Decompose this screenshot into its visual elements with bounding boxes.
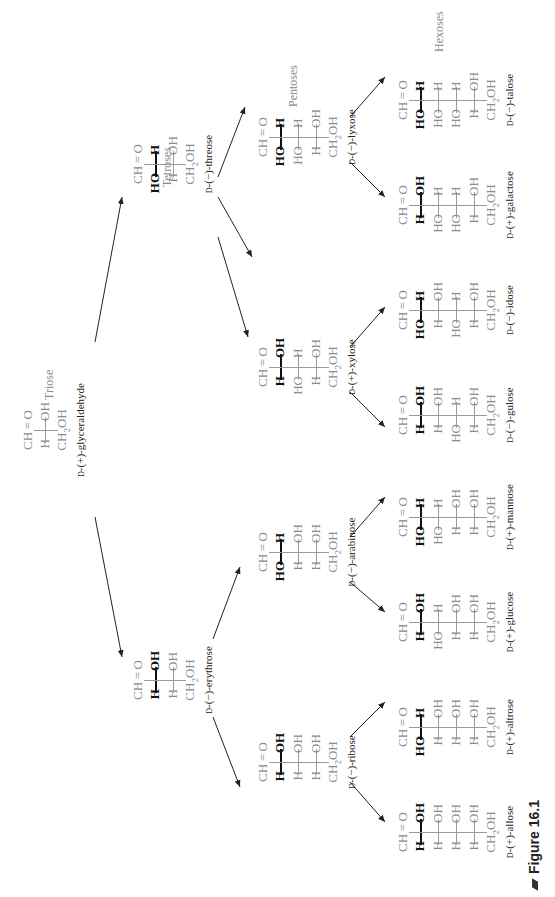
fischer-projection-erythrose: CH = OHOHHOHCH2OH: [130, 645, 198, 715]
right-substituent: OH: [307, 109, 325, 128]
right-substituent: OH: [429, 387, 447, 406]
figure-caption: Figure 16.1: [526, 800, 542, 889]
right-substituent: OH: [429, 282, 447, 301]
carbon-backbone: [409, 832, 487, 833]
carbon-backbone: [409, 727, 487, 728]
right-substituent: H: [429, 187, 447, 196]
fischer-projection-xylose: CH = OHOHHOHHOHCH2OH: [255, 332, 341, 402]
carbon-backbone: [409, 310, 487, 311]
fischer-projection-talose: CH = OHOHHOHHOHHOHCH2OH: [395, 65, 499, 135]
right-substituent: OH: [465, 282, 483, 301]
fischer-projection-gulose: CH = OHOHHOHHOHHOHCH2OH: [395, 380, 499, 450]
sugar-name-glucose: D-(+)-glucose: [503, 562, 515, 682]
fischer-projection-arabinose: CH = OHOHHOHHOHCH2OH: [255, 517, 341, 587]
carbon-backbone: [144, 164, 186, 165]
right-substituent: H: [447, 187, 465, 196]
right-substituent: OH: [447, 489, 465, 508]
fischer-projection-ribose: CH = OHOHHOHHOHCH2OH: [255, 727, 341, 797]
right-substituent: OH: [411, 176, 429, 196]
right-substituent: OH: [411, 386, 429, 406]
right-substituent: OH: [164, 136, 182, 155]
right-substituent: OH: [465, 699, 483, 718]
carbon-backbone: [269, 552, 329, 553]
right-substituent: OH: [411, 593, 429, 613]
group-label-pentoses: Pentoses: [286, 65, 301, 107]
figure-caption-text: Figure 16.1: [526, 800, 542, 874]
carbon-backbone: [269, 762, 329, 763]
sugar-name-gulose: D-(−)-gulose: [503, 355, 515, 475]
fischer-projection-mannose: CH = OHOHHOHHOHHOHCH2OH: [395, 482, 499, 552]
right-substituent: H: [447, 397, 465, 406]
right-substituent: OH: [465, 489, 483, 508]
caption-marker-icon: [532, 878, 538, 890]
sugar-name-glyceraldehyde: D-(+)-glyceraldehyde: [74, 370, 86, 490]
right-substituent: H: [289, 119, 307, 128]
right-substituent: H: [411, 708, 429, 718]
fischer-projection-lyxose: CH = OHOHHOHHOHCH2OH: [255, 102, 341, 172]
sugar-name-galactose: D-(+)-galactose: [503, 145, 515, 265]
sugar-name-threose: D-(−)-threose: [202, 104, 214, 224]
fischer-projection-glucose: CH = OHOHHOHHOHHOHCH2OH: [395, 587, 499, 657]
right-substituent: OH: [146, 651, 164, 671]
right-substituent: H: [146, 145, 164, 155]
sugar-name-arabinose: D-(−)-arabinose: [345, 492, 357, 612]
right-substituent: H: [447, 292, 465, 301]
sugar-name-lyxose: D-(−)-lyxose: [345, 77, 357, 197]
right-substituent: H: [447, 82, 465, 91]
fischer-projection-glyceraldehyde: CH = OHOHCH2OH: [20, 395, 70, 465]
right-substituent: OH: [447, 594, 465, 613]
right-substituent: OH: [307, 734, 325, 753]
group-label-hexoses: Hexoses: [432, 11, 447, 52]
sugar-name-mannose: D-(+)-mannose: [503, 457, 515, 577]
carbon-backbone: [409, 622, 487, 623]
carbon-backbone: [409, 415, 487, 416]
right-substituent: H: [429, 82, 447, 91]
fischer-projection-allose: CH = OHOHHOHHOHHOHCH2OH: [395, 797, 499, 867]
sugar-name-erythrose: D-(−)-erythrose: [202, 620, 214, 740]
right-substituent: OH: [289, 524, 307, 543]
right-substituent: OH: [271, 338, 289, 358]
right-substituent: OH: [429, 804, 447, 823]
right-substituent: H: [411, 291, 429, 301]
sugar-name-talose: D-(−)-talose: [503, 40, 515, 160]
carbon-backbone: [34, 430, 58, 431]
right-substituent: H: [271, 533, 289, 543]
right-substituent: OH: [411, 803, 429, 823]
right-substituent: OH: [465, 594, 483, 613]
carbon-backbone: [409, 205, 487, 206]
sugar-name-idose: D-(−)-idose: [503, 250, 515, 370]
right-substituent: H: [411, 81, 429, 91]
right-substituent: H: [289, 349, 307, 358]
carbon-backbone: [409, 100, 487, 101]
right-substituent: OH: [36, 402, 54, 421]
right-substituent: H: [429, 604, 447, 613]
d-aldose-family-tree: Triose Tetroses Pentoses Hexoses CH = OH…: [0, 0, 555, 897]
right-substituent: OH: [164, 652, 182, 671]
right-substituent: H: [411, 498, 429, 508]
sugar-name-ribose: D-(−)-ribose: [345, 702, 357, 822]
right-substituent: OH: [307, 524, 325, 543]
sugar-name-xylose: D-(+)-xylose: [345, 307, 357, 427]
right-substituent: OH: [465, 72, 483, 91]
right-substituent: H: [429, 499, 447, 508]
carbon-backbone: [409, 517, 487, 518]
right-substituent: OH: [465, 177, 483, 196]
right-substituent: OH: [465, 387, 483, 406]
sugar-name-allose: D-(+)-allose: [503, 772, 515, 892]
right-substituent: OH: [271, 733, 289, 753]
sugar-name-altrose: D-(+)-altrose: [503, 667, 515, 787]
right-substituent: OH: [465, 804, 483, 823]
right-substituent: H: [271, 118, 289, 128]
fischer-projection-galactose: CH = OHOHHOHHOHHOHCH2OH: [395, 170, 499, 240]
fischer-projection-threose: CH = OHOHHOHCH2OH: [130, 129, 198, 199]
right-substituent: OH: [429, 699, 447, 718]
carbon-backbone: [269, 137, 329, 138]
right-substituent: OH: [447, 699, 465, 718]
right-substituent: OH: [307, 339, 325, 358]
carbon-backbone: [144, 680, 186, 681]
carbon-backbone: [269, 367, 329, 368]
right-substituent: OH: [447, 804, 465, 823]
fischer-projection-idose: CH = OHOHHOHHOHHOHCH2OH: [395, 275, 499, 345]
fischer-projection-altrose: CH = OHOHHOHHOHHOHCH2OH: [395, 692, 499, 762]
right-substituent: OH: [289, 734, 307, 753]
